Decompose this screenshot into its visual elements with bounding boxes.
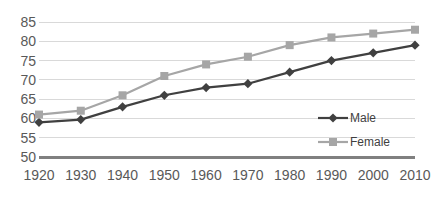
data-point-marker bbox=[35, 111, 43, 119]
legend-item-male[interactable]: Male bbox=[318, 108, 376, 128]
data-point-marker bbox=[327, 33, 335, 41]
legend-item-female[interactable]: Female bbox=[318, 132, 390, 152]
data-point-marker bbox=[327, 56, 336, 65]
data-point-marker bbox=[244, 53, 252, 61]
data-point-marker bbox=[243, 79, 252, 88]
data-point-marker bbox=[285, 68, 294, 77]
line-chart: 5055606570758085 19201930194019501960197… bbox=[0, 0, 439, 219]
data-point-marker bbox=[119, 91, 127, 99]
data-point-marker bbox=[160, 72, 168, 80]
series-line bbox=[39, 30, 415, 115]
legend-marker-icon bbox=[318, 135, 348, 149]
data-point-marker bbox=[286, 41, 294, 49]
legend-label: Male bbox=[348, 112, 376, 124]
data-point-marker bbox=[410, 41, 419, 50]
data-point-marker bbox=[77, 107, 85, 115]
data-point-marker bbox=[369, 48, 378, 57]
data-point-marker bbox=[369, 30, 377, 38]
data-point-marker bbox=[118, 102, 127, 111]
data-point-marker bbox=[34, 118, 43, 127]
legend-point-marker bbox=[328, 113, 337, 122]
data-point-marker bbox=[411, 26, 419, 34]
legend-point-marker bbox=[329, 138, 337, 146]
legend-marker-icon bbox=[318, 111, 348, 125]
series-female bbox=[35, 26, 419, 119]
data-point-marker bbox=[202, 83, 211, 92]
chart-legend: MaleFemale bbox=[318, 108, 430, 156]
data-point-marker bbox=[160, 91, 169, 100]
data-point-marker bbox=[76, 115, 85, 124]
data-point-marker bbox=[202, 60, 210, 68]
legend-label: Female bbox=[348, 136, 390, 148]
